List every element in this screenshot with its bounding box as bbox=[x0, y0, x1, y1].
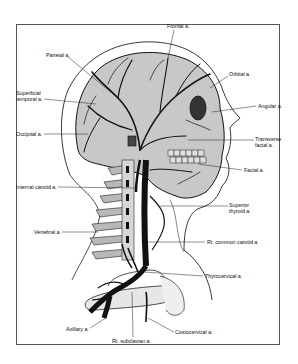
ear-canal bbox=[128, 136, 136, 146]
label-internal-carotid-artery: Internal carotid a. bbox=[16, 184, 57, 190]
skull bbox=[76, 52, 224, 198]
label-costocervical-artery: Costocervical a. bbox=[175, 329, 213, 335]
label-superficial-temporal-artery: Superficial temporal a. bbox=[16, 90, 42, 102]
label-thyrocervical-artery: Thyrocervical a. bbox=[205, 273, 242, 279]
common-carotid-artery bbox=[145, 160, 147, 266]
label-rt-subclavian-artery: Rt. subclavian a. bbox=[112, 338, 151, 344]
scapula-outline bbox=[160, 276, 184, 315]
label-rt-common-carotid-artery: Rt. common carotid a. bbox=[207, 239, 259, 245]
label-frontal-artery: Frontal a. bbox=[167, 23, 189, 29]
label-parietal-artery: Parietal a. bbox=[46, 52, 70, 58]
label-transverse-facial-artery: Transverse facial a. bbox=[255, 136, 281, 148]
label-line: facial a. bbox=[255, 142, 281, 148]
label-occipital-artery: Occipital a. bbox=[16, 131, 42, 137]
label-axillary-artery: Axillary a. bbox=[66, 326, 89, 332]
label-orbital-artery: Orbital a. bbox=[229, 71, 250, 77]
head-neck-arteries-illustration bbox=[0, 0, 298, 364]
label-line: temporal a. bbox=[16, 96, 42, 102]
orbit bbox=[190, 96, 206, 120]
costocervical-trunk bbox=[146, 292, 147, 322]
label-angular-artery: Angular a. bbox=[258, 103, 282, 109]
label-vertebral-artery: Vertebral a. bbox=[34, 229, 61, 235]
label-superior-thyroid-artery: Superior thyroid a. bbox=[229, 202, 251, 214]
throat-outline bbox=[170, 200, 184, 252]
label-facial-artery: Facial a. bbox=[244, 167, 264, 173]
label-line: thyroid a. bbox=[229, 208, 251, 214]
